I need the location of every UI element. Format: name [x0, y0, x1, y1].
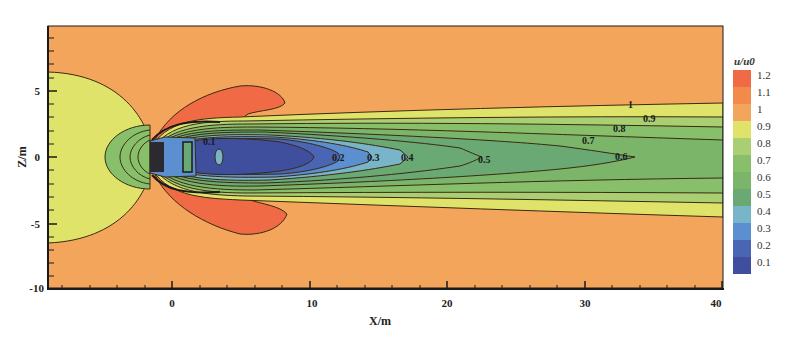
svg-text:0.2: 0.2	[332, 152, 345, 163]
svg-text:0.8: 0.8	[613, 123, 626, 134]
contour-chart: 0.1 0.2 0.3 0.4 0.5 0.6 0.7 0.8 0.9 1 0	[0, 0, 795, 351]
y-tick-label: 5	[35, 85, 41, 97]
y-axis-title: Z/m	[15, 146, 29, 167]
svg-text:0.4: 0.4	[401, 152, 414, 163]
colorbar-title: u/u0	[734, 55, 755, 67]
vehicle-rear	[183, 142, 192, 172]
svg-text:0.6: 0.6	[615, 151, 628, 162]
y-tick-label: -10	[29, 282, 44, 294]
svg-text:1: 1	[757, 103, 763, 115]
svg-text:0.5: 0.5	[757, 188, 771, 200]
svg-text:0.5: 0.5	[478, 154, 491, 165]
x-axis-title: X/m	[369, 314, 391, 328]
svg-text:0.3: 0.3	[367, 152, 380, 163]
colorbar: u/u0 1.2 1.1 1 0.9 0.8 0.7 0.6 0.5 0.4 0…	[733, 55, 771, 274]
y-tick-label: 0	[35, 151, 41, 163]
svg-text:0.9: 0.9	[643, 113, 656, 124]
svg-text:0.7: 0.7	[582, 135, 595, 146]
plot-area: 0.1 0.2 0.3 0.4 0.5 0.6 0.7 0.8 0.9 1	[48, 26, 723, 288]
svg-text:1.2: 1.2	[757, 69, 771, 81]
x-tick-label: 20	[442, 297, 454, 309]
svg-text:0.1: 0.1	[757, 256, 771, 268]
x-tick-label: 40	[711, 297, 723, 309]
svg-text:1: 1	[628, 99, 633, 110]
svg-text:0.7: 0.7	[757, 154, 771, 166]
vehicle-front	[150, 142, 164, 172]
svg-text:0.2: 0.2	[757, 239, 771, 251]
svg-text:0.4: 0.4	[757, 205, 771, 217]
x-tick-label: 10	[307, 297, 319, 309]
x-tick-label: 30	[580, 297, 592, 309]
svg-text:0.8: 0.8	[757, 137, 771, 149]
svg-text:0.9: 0.9	[757, 120, 771, 132]
x-tick-label: 0	[169, 297, 175, 309]
svg-text:0.6: 0.6	[757, 171, 771, 183]
svg-text:1.1: 1.1	[757, 86, 771, 98]
svg-text:0.3: 0.3	[757, 222, 771, 234]
svg-text:0.1: 0.1	[203, 136, 216, 147]
y-tick-label: -5	[31, 218, 41, 230]
